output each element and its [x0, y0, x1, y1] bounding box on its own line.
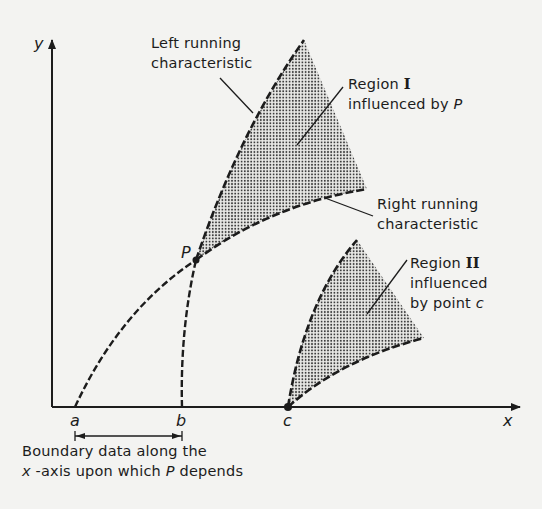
right-characteristic-label-line2: characteristic [377, 214, 479, 234]
region-1-label: Region I influenced by P [348, 74, 463, 114]
boundary-caption-middle: -axis upon which [31, 463, 166, 479]
y-axis-label: y [34, 34, 43, 53]
boundary-bracket-left-arrow [76, 433, 85, 439]
point-c-label: c [283, 411, 292, 430]
point-b-label: b [176, 411, 186, 430]
region-2-numeral: II [466, 254, 480, 271]
region-2-word: Region [410, 255, 461, 271]
boundary-caption-line1: Boundary data along the [22, 441, 243, 461]
region-2-label-line2: influenced [410, 273, 488, 293]
right-running-characteristic-a-to-p [75, 260, 196, 407]
region-2-label: Region II influenced by point c [410, 253, 488, 313]
region-2-point: c [476, 295, 484, 311]
boundary-data-caption: Boundary data along the x -axis upon whi… [22, 441, 243, 481]
region-1-label-line1: Region I [348, 74, 463, 94]
region-1-label-line2: influenced by P [348, 94, 463, 114]
leader-left-char [220, 78, 253, 113]
point-c-marker [284, 403, 292, 411]
point-p-label: P [181, 243, 191, 262]
boundary-caption-end: depends [175, 463, 243, 479]
point-p-marker [193, 257, 200, 264]
boundary-bracket-right-arrow [172, 433, 181, 439]
left-characteristic-label: Left running characteristic [151, 33, 253, 73]
boundary-caption-x-var: x [22, 463, 31, 479]
region-2-label-line1: Region II [410, 253, 488, 273]
right-characteristic-label: Right running characteristic [377, 194, 479, 234]
region-1-numeral: I [404, 75, 411, 92]
leader-right-char [325, 198, 373, 216]
x-axis-label: x [503, 411, 512, 430]
region-2-by-point-text: by point [410, 295, 471, 311]
boundary-caption-p-var: P [166, 463, 175, 479]
region-1-point: P [454, 96, 463, 112]
left-characteristic-label-line1: Left running [151, 33, 253, 53]
region-1-influenced-text: influenced by [348, 96, 449, 112]
right-characteristic-label-line1: Right running [377, 194, 479, 214]
region-2-label-line3: by point c [410, 293, 488, 313]
point-a-label: a [70, 411, 80, 430]
boundary-caption-line2: x -axis upon which P depends [22, 461, 243, 481]
left-characteristic-label-line2: characteristic [151, 53, 253, 73]
left-running-characteristic-b-to-p [182, 260, 196, 407]
region-1-word: Region [348, 76, 399, 92]
